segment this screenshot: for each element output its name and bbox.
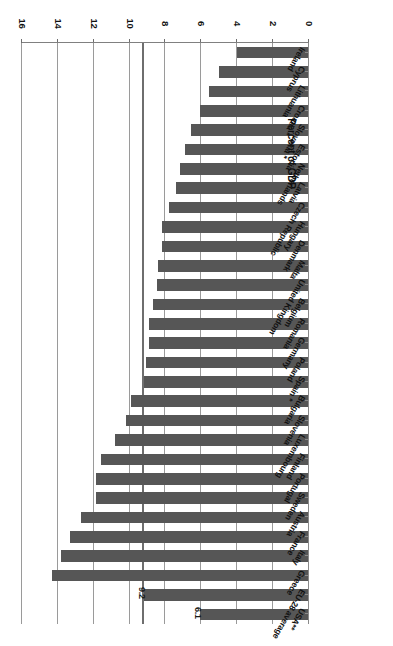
bar-row [22,337,309,349]
bar [157,279,309,291]
bar-row [22,434,309,446]
bar-row [22,376,309,388]
bar-row [22,550,309,562]
bar-row [22,531,309,543]
bar-row [22,492,309,504]
bar [53,570,310,582]
bar-row [22,66,309,78]
bar-row [22,279,309,291]
bar-row [22,318,309,330]
tick-label-16: 16 [17,14,28,34]
bar [131,395,309,407]
tick-label-12: 12 [88,14,99,34]
bar-row [22,512,309,524]
bar-row [22,454,309,466]
bar-row [22,163,309,175]
category-axis-line [308,43,309,624]
tick-label-6: 6 [196,14,207,34]
bar-row [22,86,309,98]
bar-row [22,609,309,621]
bar-row [22,473,309,485]
tick-label-14: 14 [52,14,63,34]
bar [81,512,309,524]
bar-row [22,221,309,233]
bar [70,531,309,543]
bar-row [22,395,309,407]
bar-row [22,47,309,59]
tick-label-10: 10 [124,14,135,34]
bar-chart-figure: USA**EU-28 averageGreeceItalyFranceAustr… [0,0,393,646]
value-axis-line [22,42,309,43]
bar-row [22,299,309,311]
bar [169,202,309,214]
bar-row [22,202,309,214]
bar [115,434,309,446]
bar [61,550,309,562]
bar-row [22,241,309,253]
bar [101,454,309,466]
bar-row [22,260,309,272]
bar-row [22,357,309,369]
bar-row [22,570,309,582]
tick-label-0: 0 [304,14,315,34]
tick-label-2: 2 [268,14,279,34]
data-label: 9.2 [137,587,147,599]
bar-row [22,124,309,136]
tick-label-4: 4 [232,14,243,34]
bar-row [22,182,309,194]
bar-row [22,415,309,427]
axis-title: Percent of GDP [286,118,297,189]
bar-row [22,589,309,601]
bar [96,492,309,504]
bar-row [22,144,309,156]
bar-row [22,105,309,117]
data-label: 6.1 [193,607,203,619]
plot-area [22,43,309,624]
tick-label-8: 8 [160,14,171,34]
